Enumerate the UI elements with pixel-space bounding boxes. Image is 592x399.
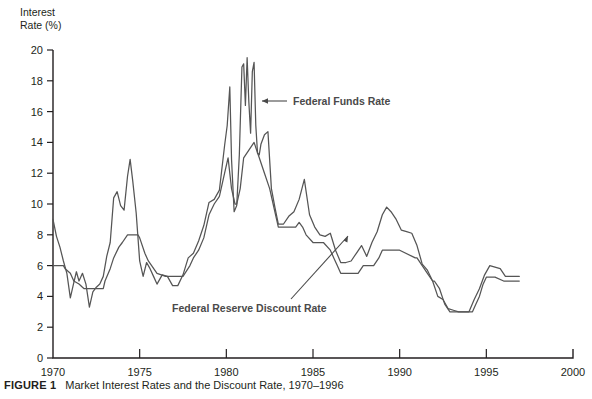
x-axis-tick-label: 1995 xyxy=(474,366,498,378)
y-axis-tick-label: 10 xyxy=(31,198,43,210)
y-axis-tick-label: 16 xyxy=(31,106,43,118)
annotation-discount-label: Federal Reserve Discount Rate xyxy=(172,302,327,314)
y-axis-tick-label: 20 xyxy=(31,44,43,56)
x-axis-tick-label: 1985 xyxy=(301,366,325,378)
x-axis-tick-label: 1970 xyxy=(41,366,65,378)
y-axis-tick-label: 18 xyxy=(31,75,43,87)
figure-caption-label: FIGURE 1 xyxy=(4,379,56,391)
y-axis-tick-label: 6 xyxy=(37,260,43,272)
y-axis-tick-label: 0 xyxy=(37,352,43,364)
series-federal-funds-rate xyxy=(53,58,519,312)
x-axis-tick-label: 1975 xyxy=(127,366,151,378)
chart-canvas: 02468101214161820 1970197519801985199019… xyxy=(0,0,592,399)
x-axis-tick-label: 1990 xyxy=(387,366,411,378)
annotation-federal-funds-rate: Federal Funds Rate xyxy=(262,95,391,107)
figure-container: Interest Rate (%) 02468101214161820 1970… xyxy=(0,0,592,399)
y-axis-tick-label: 14 xyxy=(31,136,43,148)
series-discount-rate xyxy=(53,142,519,311)
y-axis-tick-label: 12 xyxy=(31,167,43,179)
figure-caption: FIGURE 1Market Interest Rates and the Di… xyxy=(4,379,344,391)
x-axis-tick-label: 2000 xyxy=(561,366,585,378)
y-axis-tick-label: 4 xyxy=(37,290,43,302)
y-axis-tick-label: 2 xyxy=(37,321,43,333)
x-axis-tick-label: 1980 xyxy=(214,366,238,378)
annotation-discount-rate: Federal Reserve Discount Rate xyxy=(172,236,348,314)
y-axis-tick-label: 8 xyxy=(37,229,43,241)
figure-caption-text: Market Interest Rates and the Discount R… xyxy=(65,379,343,391)
x-axis-tick-group: 1970197519801985199019952000 xyxy=(41,349,585,378)
annotation-funds-label: Federal Funds Rate xyxy=(293,95,391,107)
y-axis-tick-group: 02468101214161820 xyxy=(31,44,53,364)
